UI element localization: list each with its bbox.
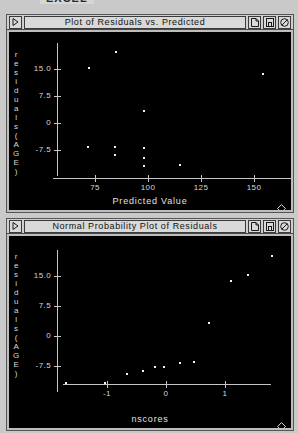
y-axis-label-char: s <box>14 68 18 77</box>
plot-normal-probability[interactable]: residuals(AGE) nscores 15.07.50-7.5-101 <box>9 236 291 428</box>
y-tick-label: 15.0 <box>27 271 51 280</box>
floppy-glyph <box>266 18 274 27</box>
x-tick-label: 125 <box>187 183 215 192</box>
y-axis-label-char: ) <box>15 369 18 378</box>
title-area-residuals[interactable]: Plot of Residuals vs. Predicted <box>24 16 246 29</box>
data-point <box>114 146 116 148</box>
y-tick-label: -7.5 <box>27 361 51 370</box>
y-axis-label-char: l <box>15 113 17 122</box>
y-axis-label-char: ( <box>15 131 18 140</box>
y-axis-label-char: r <box>15 252 18 261</box>
floppy-glyph <box>266 222 274 231</box>
data-point <box>65 382 67 384</box>
y-axis-label-char: A <box>13 140 18 149</box>
y-tick <box>54 336 61 337</box>
y-axis-label-char: E <box>13 360 18 369</box>
play-triangle-glyph <box>12 18 19 26</box>
play-triangle-icon[interactable] <box>9 16 22 29</box>
y-tick-label: 7.5 <box>27 301 51 310</box>
y-axis-label-char: i <box>15 77 17 86</box>
data-point <box>114 154 116 156</box>
x-tick-label: 75 <box>81 183 109 192</box>
y-tick <box>54 69 61 70</box>
data-point <box>271 255 273 257</box>
data-point <box>115 51 117 53</box>
y-tick <box>54 123 61 124</box>
data-point <box>87 146 89 148</box>
x-tick-label: 0 <box>152 389 180 398</box>
page-icon[interactable] <box>248 220 261 233</box>
data-point <box>126 373 128 375</box>
window-residuals-vs-predicted: Plot of Residuals vs. Predicted <box>6 14 294 213</box>
y-axis-label-char: l <box>15 315 17 324</box>
y-axis-label-char: ( <box>15 333 18 342</box>
x-tick <box>148 175 149 182</box>
x-axis-line <box>53 178 291 179</box>
y-axis-label-char: u <box>14 95 18 104</box>
y-axis-label-char: E <box>13 158 18 167</box>
y-tick-label: 0 <box>27 331 51 340</box>
no-entry-icon[interactable] <box>278 220 291 233</box>
y-axis-label-char: d <box>14 86 18 95</box>
y-tick <box>54 96 61 97</box>
y-axis-label-char: ) <box>15 167 18 176</box>
diamond-grip-icon <box>277 204 286 210</box>
save-floppy-icon[interactable] <box>263 220 276 233</box>
circle-slash-glyph <box>280 222 289 231</box>
data-point <box>142 370 144 372</box>
titlebar-normal: Normal Probability Plot of Residuals <box>7 219 293 234</box>
resize-grip-residuals[interactable] <box>277 198 286 207</box>
y-tick <box>54 366 61 367</box>
y-axis-label-char: G <box>13 149 19 158</box>
data-point <box>88 67 90 69</box>
window-normal-probability-plot: Normal Probability Plot of Residuals <box>6 218 294 431</box>
page-icon[interactable] <box>248 16 261 29</box>
data-point <box>143 157 145 159</box>
data-point <box>179 362 181 364</box>
x-tick-label: 1 <box>211 389 239 398</box>
x-tick-label: 100 <box>134 183 162 192</box>
y-axis-label-char: e <box>14 59 18 68</box>
y-axis-label-char: d <box>14 288 18 297</box>
x-tick <box>201 175 202 182</box>
y-tick-label: 7.5 <box>27 91 51 100</box>
x-tick <box>254 175 255 182</box>
titlebar-buttons-normal <box>247 220 292 233</box>
page-glyph <box>251 18 259 27</box>
titlebar-residuals: Plot of Residuals vs. Predicted <box>7 15 293 30</box>
y-axis-line <box>57 250 58 392</box>
y-tick <box>54 150 61 151</box>
x-axis-line <box>63 384 271 385</box>
y-tick-label: 15.0 <box>27 64 51 73</box>
window-title-residuals: Plot of Residuals vs. Predicted <box>65 17 206 27</box>
x-tick <box>225 381 226 388</box>
data-point <box>247 274 249 276</box>
data-point <box>262 73 264 75</box>
y-axis-label-char: i <box>15 279 17 288</box>
diamond-grip-icon <box>277 422 286 428</box>
data-point <box>193 361 195 363</box>
y-axis-label-char: G <box>13 351 19 360</box>
play-triangle-icon[interactable] <box>9 220 22 233</box>
x-axis-label-normal: nscores <box>9 414 291 424</box>
play-triangle-glyph <box>12 222 19 230</box>
window-title-normal: Normal Probability Plot of Residuals <box>52 221 217 231</box>
no-entry-icon[interactable] <box>278 16 291 29</box>
y-axis-line <box>57 43 58 176</box>
page-glyph <box>251 222 259 231</box>
y-axis-label-char: s <box>14 122 18 131</box>
save-floppy-icon[interactable] <box>263 16 276 29</box>
title-area-normal[interactable]: Normal Probability Plot of Residuals <box>24 220 246 233</box>
y-axis-label-char: s <box>14 270 18 279</box>
data-point <box>143 147 145 149</box>
data-point <box>179 164 181 166</box>
x-tick <box>107 381 108 388</box>
circle-slash-glyph <box>280 18 289 27</box>
x-tick <box>166 381 167 388</box>
plot-residuals-vs-predicted[interactable]: residuals(AGE) Predicted Value 15.07.50-… <box>9 32 291 210</box>
y-axis-label-char: u <box>14 297 18 306</box>
y-axis-label-char: a <box>14 306 18 315</box>
resize-grip-normal[interactable] <box>277 416 286 425</box>
y-tick-label: 0 <box>27 118 51 127</box>
data-point <box>163 366 165 368</box>
